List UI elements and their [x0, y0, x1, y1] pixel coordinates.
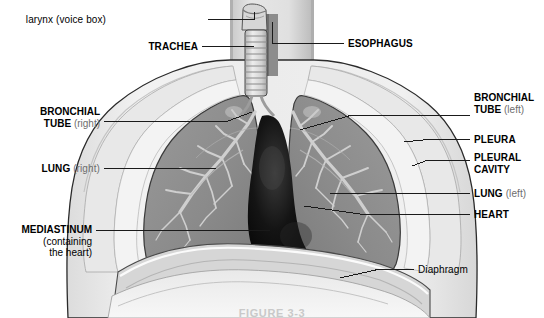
label-trachea: TRACHEA — [148, 41, 202, 53]
label-lung-right: LUNG (right) — [42, 163, 100, 175]
label-lung-left: LUNG (left) — [474, 188, 526, 200]
label-heart: HEART — [474, 209, 509, 221]
label-mediastinum: MEDIASTINUM (containing the heart) — [21, 224, 92, 259]
label-diaphragm: Diaphragm — [418, 264, 468, 276]
label-pleura: PLEURA — [474, 134, 516, 146]
figure-canvas: larynx (voice box) TRACHEA ESOPHAGUS BRO… — [0, 0, 544, 318]
label-bronchial-tube-right: BRONCHIAL TUBE (right) — [40, 106, 100, 129]
figure-caption: FIGURE 3-3 — [0, 307, 544, 318]
label-esophagus: ESOPHAGUS — [348, 38, 413, 50]
label-larynx: larynx (voice box) — [26, 14, 106, 26]
label-bronchial-tube-left: BRONCHIAL TUBE (left) — [474, 92, 534, 115]
label-pleural-cavity: PLEURAL CAVITY — [474, 152, 521, 175]
